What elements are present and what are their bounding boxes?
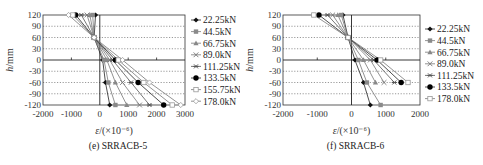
legend: 22.25kN44.5kN66.75kN89.0kN111.25kN133.5k… [191, 15, 240, 106]
circle-marker [427, 84, 432, 89]
y-tick-label: 120 [268, 10, 282, 20]
y-tick-label: 90 [272, 21, 282, 31]
square-marker [365, 80, 369, 84]
asterisk-marker [79, 13, 84, 17]
legend-label: 111.25kN [203, 62, 240, 72]
legend: 22.25kN44.5kN66.75kN89.0kN111.25kN133.5k… [425, 24, 474, 104]
y-tick-label: 60 [32, 33, 42, 43]
diamond-marker [193, 17, 198, 22]
strain-profile-chart-e: 1209060300-30-60-90-120-2000-10000100020… [0, 0, 240, 165]
open-square-marker [428, 96, 432, 100]
legend-label: 111.25kN [437, 71, 474, 81]
x-tick-label: 1000 [119, 109, 138, 119]
legend-label: 133.5kN [437, 82, 470, 92]
x-tick-label: 3000 [176, 109, 195, 119]
square-marker [106, 80, 110, 84]
y-tick-label: -60 [269, 78, 281, 88]
legend-label: 44.5kN [203, 27, 231, 37]
circle-marker [161, 102, 166, 107]
y-tick-label: 90 [32, 21, 42, 31]
asterisk-marker [128, 81, 133, 85]
y-axis-label: h/mm [4, 48, 15, 72]
x-axis-label: ε/(×10⁻⁶) [95, 125, 133, 137]
y-tick-label: 0 [37, 55, 42, 65]
y-tick-label: 120 [28, 10, 42, 20]
y-tick-label: 30 [32, 44, 42, 54]
open-square-marker [170, 103, 174, 107]
diamond-marker [107, 102, 112, 107]
open-square-marker [346, 35, 350, 39]
open-diamond-marker [178, 102, 183, 107]
diamond-marker [368, 102, 373, 107]
y-axis-label: h/mm [244, 48, 255, 72]
y-tick-label: 0 [277, 55, 282, 65]
x-axis-label: ε/(×10⁻⁶) [333, 125, 371, 137]
x-tick-label: -1000 [61, 109, 82, 119]
y-tick-label: 60 [272, 33, 282, 43]
y-tick-label: -90 [269, 89, 281, 99]
open-square-marker [142, 80, 146, 84]
circle-marker [135, 80, 140, 85]
asterisk-marker [147, 103, 152, 107]
y-tick-label: -30 [269, 66, 281, 76]
legend-label: 22.25kN [203, 15, 236, 25]
y-tick-label: -60 [29, 78, 41, 88]
circle-marker [398, 80, 403, 85]
open-diamond-marker [193, 99, 198, 104]
asterisk-marker [427, 73, 432, 77]
x-tick-label: 1000 [377, 109, 396, 119]
chart-caption: (f) SRRACB-6 [327, 141, 385, 152]
legend-label: 178.0kN [203, 97, 236, 107]
diamond-marker [427, 26, 432, 31]
open-square-marker [378, 58, 382, 62]
y-tick-label: -90 [29, 89, 41, 99]
circle-marker [193, 75, 198, 80]
open-square-marker [312, 13, 316, 17]
square-marker [194, 29, 198, 33]
y-tick-label: -30 [29, 66, 41, 76]
open-square-marker [406, 80, 410, 84]
y-tick-label: 30 [272, 44, 282, 54]
legend-label: 44.5kN [437, 36, 465, 46]
x-tick-label: 2000 [148, 109, 167, 119]
circle-marker [316, 12, 321, 17]
square-marker [356, 58, 360, 62]
legend-label: 66.75kN [203, 39, 236, 49]
legend-label: 155.75kN [203, 85, 240, 95]
legend-label: 89.0kN [203, 50, 231, 60]
strain-profile-chart-f: 1209060300-30-60-90-120-2000-10000100020… [240, 0, 483, 165]
x-tick-label: -2000 [33, 109, 54, 119]
open-square-marker [194, 87, 198, 91]
x-tick-label: 2000 [411, 109, 430, 119]
legend-label: 66.75kN [437, 48, 470, 58]
square-marker [113, 103, 117, 107]
legend-label: 178.0kN [437, 94, 470, 104]
square-marker [428, 38, 432, 42]
x-marker [120, 80, 125, 85]
triangle-marker [373, 80, 378, 85]
asterisk-marker [392, 81, 397, 85]
x-tick-label: 0 [98, 109, 103, 119]
x-marker [382, 80, 387, 85]
legend-label: 133.5kN [203, 73, 236, 83]
x-tick-label: 0 [349, 109, 354, 119]
asterisk-marker [325, 13, 330, 17]
legend-label: 22.25kN [437, 24, 470, 34]
legend-label: 89.0kN [437, 59, 465, 69]
triangle-marker [113, 80, 118, 85]
x-tick-label: -1000 [307, 109, 328, 119]
chart-caption: (e) SRRACB-5 [89, 141, 148, 152]
x-tick-label: -2000 [273, 109, 294, 119]
square-marker [378, 103, 382, 107]
chart-srracb-5: 1209060300-30-60-90-120-2000-10000100020… [0, 0, 240, 165]
asterisk-marker [193, 64, 198, 68]
chart-srracb-6: 1209060300-30-60-90-120-2000-10000100020… [240, 0, 483, 165]
